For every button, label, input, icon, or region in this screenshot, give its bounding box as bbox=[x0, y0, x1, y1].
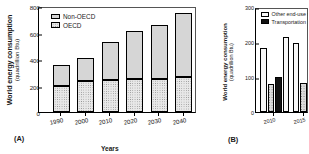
panel-a-y-tickmark bbox=[39, 8, 42, 9]
legend-item-other-end-use: Other end-use s bbox=[261, 11, 308, 17]
panel-a-plot-area: Non-OECD OECD bbox=[38, 7, 196, 113]
panel-b-legend: Other end-use s Transportation bbox=[261, 11, 308, 26]
legend-label-nonoecd: Non-OECD bbox=[63, 13, 95, 20]
bar-hatched bbox=[268, 84, 275, 112]
panel-a-x-tick-label: 2030 bbox=[147, 116, 162, 126]
bar-segment-oecd bbox=[175, 77, 192, 113]
panel-b-plot-area: Other end-use s Transportation bbox=[255, 8, 308, 113]
legend-swatch-oecd-icon bbox=[51, 22, 60, 28]
legend-label-other-end-use: Other end-use s bbox=[272, 11, 309, 17]
panel-b-y-tickmark bbox=[256, 9, 259, 10]
bar-segment-oecd bbox=[151, 79, 168, 112]
panel-a-y-tickmark bbox=[39, 61, 42, 62]
bar-segment-nonoecd bbox=[175, 13, 192, 76]
panel-a: World energy consumption (quadrillion Bt… bbox=[0, 0, 200, 154]
legend-item-nonoecd: Non-OECD bbox=[51, 13, 95, 20]
panel-a-y-tickmark bbox=[39, 34, 42, 35]
panel-b-y-ticks: 300 200 100 0 bbox=[224, 0, 254, 154]
bar-segment-nonoecd bbox=[151, 25, 168, 79]
bar-segment-nonoecd bbox=[53, 65, 70, 86]
panel-a-x-tick-label: 1990 bbox=[49, 116, 64, 126]
panel-b-x-tick-label: 2015 bbox=[293, 117, 306, 125]
panel-b-label: (B) bbox=[228, 135, 238, 144]
bar-segment-oecd bbox=[53, 86, 70, 113]
legend-label-oecd: OECD bbox=[63, 22, 81, 29]
legend-swatch-nonoecd-icon bbox=[51, 14, 60, 20]
bar-segment-nonoecd bbox=[102, 42, 119, 79]
panel-b-y-tick-label: 100 bbox=[228, 75, 254, 81]
panel-b-x-ticks: 2010 2015 bbox=[255, 117, 308, 135]
bar-other-end-use bbox=[293, 43, 300, 112]
bar-transportation bbox=[275, 77, 282, 112]
panel-a-y-tick-label: 200 bbox=[6, 83, 40, 90]
bar-other-end-use bbox=[260, 48, 267, 112]
panel-a-legend: Non-OECD OECD bbox=[51, 13, 95, 30]
panel-a-y-tick-label: 400 bbox=[6, 57, 40, 64]
legend-swatch-other-end-use-icon bbox=[261, 12, 269, 17]
panel-a-y-tick-label: 0 bbox=[6, 110, 40, 117]
legend-item-transportation: Transportation bbox=[261, 19, 308, 25]
panel-a-label: (A) bbox=[14, 134, 24, 143]
panel-a-y-ticks: 800 600 400 200 0 bbox=[0, 0, 40, 154]
figure-root: World energy consumption (quadrillion Bt… bbox=[0, 0, 308, 154]
panel-a-x-tick-label: 2010 bbox=[98, 116, 113, 126]
panel-b-y-tick-label: 0 bbox=[228, 110, 254, 116]
legend-swatch-transportation-icon bbox=[261, 19, 269, 24]
panel-a-y-tick-label: 600 bbox=[6, 30, 40, 37]
legend-label-transportation: Transportation bbox=[272, 19, 307, 25]
bar-segment-oecd bbox=[77, 81, 94, 113]
bar-other-end-use bbox=[283, 37, 290, 112]
legend-item-oecd: OECD bbox=[51, 22, 95, 29]
bar-transportation bbox=[308, 74, 309, 112]
bar-segment-nonoecd bbox=[126, 31, 143, 79]
panel-a-x-tick-label: 2020 bbox=[123, 116, 138, 126]
panel-b-y-tick-label: 200 bbox=[228, 40, 254, 46]
panel-b-x-tick-label: 2010 bbox=[263, 117, 276, 125]
panel-a-x-tick-label: 2040 bbox=[172, 116, 187, 126]
panel-b-y-tickmark bbox=[256, 44, 259, 45]
bar-hatched bbox=[300, 83, 307, 112]
panel-b-y-tickmark bbox=[256, 79, 259, 80]
bar-segment-nonoecd bbox=[77, 58, 94, 81]
panel-b: World energy consumption (quadrillion Bt… bbox=[200, 0, 308, 154]
panel-a-y-tickmark bbox=[39, 87, 42, 88]
panel-b-y-tick-label: 300 bbox=[228, 5, 254, 11]
bar-segment-oecd bbox=[126, 79, 143, 112]
bar-segment-oecd bbox=[102, 80, 119, 112]
panel-a-x-ticks: 1990 2000 2010 2020 2030 2040 bbox=[38, 117, 203, 135]
panel-a-y-tick-label: 800 bbox=[6, 4, 40, 11]
panel-a-x-tick-label: 2000 bbox=[74, 116, 89, 126]
panel-a-x-axis-title: Years bbox=[101, 145, 119, 152]
